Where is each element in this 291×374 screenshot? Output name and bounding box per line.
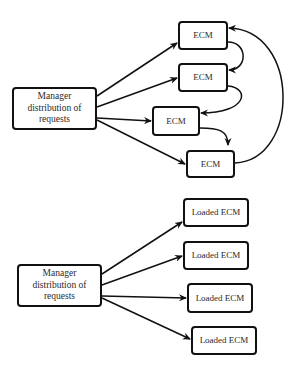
curve-ecm4-to-ecm1 bbox=[229, 28, 283, 163]
manager-node-bottom: Manager distribution of requests bbox=[17, 264, 102, 307]
manager-node-top: Manager distribution of requests bbox=[12, 87, 97, 130]
arrow-manager-to-ecm2 bbox=[97, 78, 177, 107]
loaded-ecm-node-2: Loaded ECM bbox=[183, 241, 249, 270]
connector-layer bbox=[0, 0, 291, 374]
manager-label-line: distribution of bbox=[32, 280, 86, 292]
manager-label-line: requests bbox=[27, 114, 81, 126]
arrow-manager-to-loaded2 bbox=[102, 256, 182, 285]
ecm-node-2: ECM bbox=[178, 63, 228, 92]
manager-label-line: Manager bbox=[27, 91, 81, 103]
curve-ecm3-to-ecm4 bbox=[200, 128, 228, 145]
ecm-node-1: ECM bbox=[178, 21, 228, 50]
manager-label-line: Manager bbox=[32, 268, 86, 280]
arrow-manager-to-ecm1 bbox=[97, 43, 177, 96]
arrow-manager-to-loaded1 bbox=[102, 222, 182, 274]
loaded-ecm-node-3: Loaded ECM bbox=[187, 283, 253, 313]
ecm-node-3: ECM bbox=[152, 106, 200, 136]
ecm-node-4: ECM bbox=[186, 150, 235, 178]
loaded-ecm-node-4: Loaded ECM bbox=[191, 326, 257, 355]
arrow-manager-to-loaded3 bbox=[102, 296, 186, 298]
curve-ecm1-to-ecm2 bbox=[228, 42, 243, 70]
arrow-manager-to-loaded4 bbox=[102, 298, 190, 339]
manager-label-line: distribution of bbox=[27, 103, 81, 115]
loaded-ecm-node-1: Loaded ECM bbox=[183, 198, 249, 227]
arrow-manager-to-ecm3 bbox=[97, 118, 151, 121]
manager-label-line: requests bbox=[32, 291, 86, 303]
